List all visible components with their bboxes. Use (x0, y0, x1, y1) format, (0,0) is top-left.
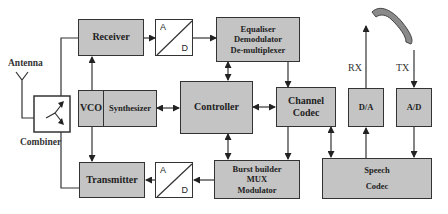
receiver-label: Receiver (92, 31, 129, 44)
controller-block: Controller (180, 81, 253, 134)
receiver-block: Receiver (78, 19, 144, 56)
ad-converter-bottom: A D (155, 162, 193, 198)
synthesizer-label: Synthesizer (109, 103, 151, 114)
transmitter-label: Transmitter (86, 174, 137, 187)
codec-label: Codec (293, 107, 320, 120)
synthesizer-block: Synthesizer (103, 90, 157, 127)
vco-label: VCO (80, 102, 102, 115)
equaliser-block: Equaliser Demodulator De-multiplexer (216, 17, 300, 62)
da-label: D/A (359, 102, 374, 113)
da-block: D/A (348, 88, 384, 127)
channel-codec-block: Channel Codec (276, 87, 336, 127)
ad-right-block: A/D (396, 88, 432, 127)
mux-label: MUX (247, 174, 267, 185)
converter-d-label: D (182, 185, 189, 195)
controller-label: Controller (194, 101, 239, 114)
antenna-label: Antenna (8, 58, 43, 68)
ad-converter-top: A D (155, 19, 193, 56)
codec-label: Codec (366, 181, 389, 192)
combiner-label: Combiner (20, 137, 61, 147)
converter-d-label: D (182, 43, 189, 53)
equaliser-label: Equaliser (241, 24, 276, 35)
vco-block: VCO (78, 90, 104, 127)
ad-right-label: A/D (407, 102, 422, 113)
converter-a-label: A (160, 165, 166, 175)
transmitter-block: Transmitter (79, 162, 145, 198)
converter-a-label: A (160, 22, 166, 32)
demultiplexer-label: De-multiplexer (231, 45, 286, 56)
telephone-handset-icon (372, 8, 412, 44)
rx-label: RX (348, 62, 362, 73)
speech-codec-block: Speech Codec (322, 158, 432, 199)
gsm-block-diagram: Antenna Combiner RX TX Receiver A D Equa… (0, 0, 448, 214)
tx-label: TX (396, 62, 409, 73)
demodulator-label: Demodulator (234, 34, 282, 45)
speech-label: Speech (364, 165, 390, 176)
burst-builder-block: Burst builder MUX Modulator (214, 160, 300, 199)
burst-builder-label: Burst builder (233, 164, 282, 175)
modulator-label: Modulator (237, 185, 276, 196)
channel-label: Channel (288, 95, 324, 108)
